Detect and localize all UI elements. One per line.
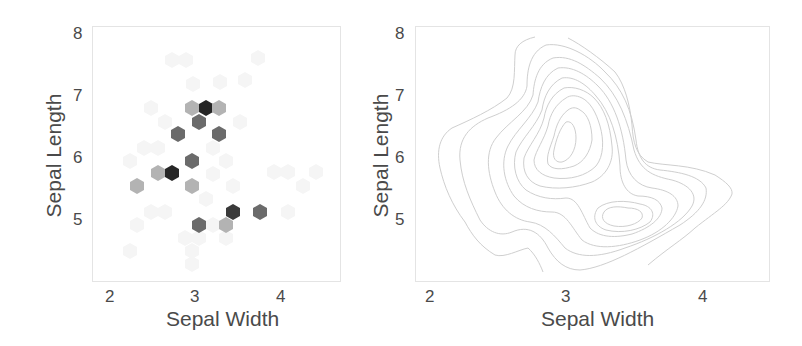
hexbin-svg	[0, 0, 400, 346]
hex-bin	[165, 165, 179, 181]
hex-bin	[192, 114, 206, 130]
hex-bin	[185, 153, 199, 169]
hex-bin	[212, 126, 226, 142]
faint-hexes	[123, 50, 323, 272]
hex-bin	[185, 100, 199, 116]
kde-panel: 8 7 6 5 2 3 4 Sepal Width Sepal Length	[400, 0, 802, 346]
hex-bin	[130, 178, 144, 194]
y-axis-label: Sepal Length	[370, 94, 391, 218]
hexbin-panel: 8 7 6 5 2 3 4 Sepal Width Sepal Length	[0, 0, 400, 346]
hex-bin	[212, 100, 226, 116]
hex-bin	[171, 126, 185, 142]
hex-bin	[219, 217, 233, 233]
hex-bin	[192, 217, 206, 233]
hex-bin	[226, 204, 240, 220]
hex-bin	[151, 165, 165, 181]
kde-contours-svg	[400, 0, 802, 346]
hex-bin	[185, 178, 199, 194]
hex-bin	[253, 204, 267, 220]
kde-contours	[439, 37, 733, 272]
hex-bin	[199, 100, 213, 116]
